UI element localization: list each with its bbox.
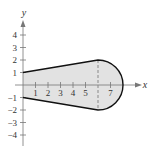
svg-text:1: 1 [13,68,18,78]
svg-text:−4: −4 [7,130,17,140]
x-axis-arrow-icon [135,83,142,88]
svg-text:4: 4 [13,30,18,40]
svg-text:−3: −3 [7,118,17,128]
svg-text:2: 2 [46,88,51,98]
svg-text:1: 1 [33,88,38,98]
y-axis-arrow-icon [21,20,26,27]
y-axis-label: y [21,7,27,18]
svg-text:2: 2 [13,55,18,65]
svg-text:−1: −1 [7,93,17,103]
svg-text:4: 4 [71,88,76,98]
svg-text:5: 5 [83,88,88,98]
svg-text:3: 3 [13,43,18,53]
region-plot: 1 2 3 4 5 7 4 3 2 1 −1 −2 −3 −4 x y [0,0,152,151]
svg-text:3: 3 [58,88,63,98]
svg-text:7: 7 [108,88,113,98]
svg-text:−2: −2 [7,105,17,115]
x-axis-label: x [142,79,148,90]
